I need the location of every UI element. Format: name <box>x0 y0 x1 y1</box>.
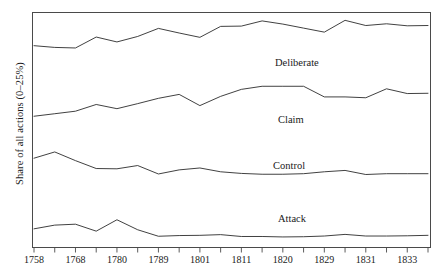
x-axis-tick-label: 1829 <box>314 254 334 265</box>
series-label-claim: Claim <box>278 114 304 125</box>
x-axis-tick-label: 1811 <box>232 254 252 265</box>
x-axis-tick-label: 1831 <box>356 254 376 265</box>
plot-frame <box>33 13 431 248</box>
x-axis-tick-label: 1780 <box>107 254 127 265</box>
x-axis-tick-label: 1833 <box>397 254 417 265</box>
x-axis-tick-label: 1758 <box>24 254 44 265</box>
series-label-control: Control <box>273 160 305 171</box>
chart-figure: Share of all actions (0–25%) DeliberateC… <box>0 0 445 280</box>
x-axis-tick-label: 1820 <box>273 254 293 265</box>
x-axis-ticks <box>34 248 428 253</box>
x-axis-tick-label: 1768 <box>65 254 85 265</box>
series-label-attack: Attack <box>278 213 306 224</box>
x-axis-tick-label: 1789 <box>148 254 168 265</box>
series-label-deliberate: Deliberate <box>275 57 319 68</box>
x-axis-tick-label: 1801 <box>190 254 210 265</box>
plot-area <box>0 0 445 280</box>
